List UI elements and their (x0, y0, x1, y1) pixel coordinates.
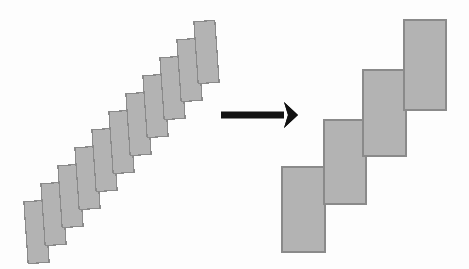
coarse-tile (404, 20, 446, 110)
coarse-tile (282, 167, 325, 252)
coarse-tile (324, 120, 366, 204)
coarse-tile (363, 70, 406, 156)
transformation-figure (0, 0, 469, 269)
diagram-canvas (0, 0, 469, 269)
fine-tile (194, 20, 219, 83)
